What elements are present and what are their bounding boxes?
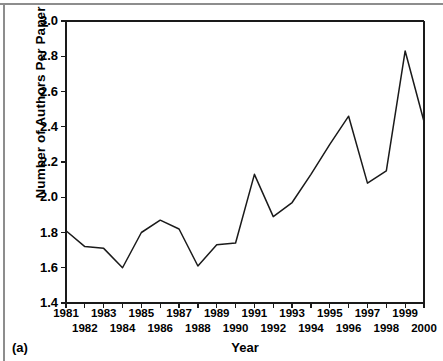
y-axis-tick-marks <box>61 21 66 303</box>
plot-frame <box>66 21 424 303</box>
panel-caption: (a) <box>12 340 28 355</box>
x-tick-label-even: 1996 <box>332 323 366 335</box>
y-tick-label: 1.6 <box>18 261 58 274</box>
x-tick-label-even: 1998 <box>369 323 403 335</box>
x-tick-label-odd: 1981 <box>49 308 83 320</box>
x-tick-label-even: 1986 <box>143 323 177 335</box>
authors-per-paper-series <box>66 51 424 268</box>
x-tick-label-odd: 1991 <box>237 308 271 320</box>
x-tick-label-even: 1994 <box>294 323 328 335</box>
x-tick-label-odd: 1983 <box>87 308 121 320</box>
x-tick-label-even: 1992 <box>256 323 290 335</box>
x-tick-label-odd: 1989 <box>200 308 234 320</box>
x-tick-label-odd: 1985 <box>124 308 158 320</box>
x-tick-label-odd: 1993 <box>275 308 309 320</box>
x-tick-label-odd: 1999 <box>388 308 422 320</box>
x-tick-label-even: 1988 <box>181 323 215 335</box>
x-tick-label-odd: 1997 <box>350 308 384 320</box>
x-tick-label-even: 1984 <box>106 323 140 335</box>
y-tick-label: 1.8 <box>18 226 58 239</box>
x-tick-label-odd: 1987 <box>162 308 196 320</box>
figure-panel-a: 1.41.61.82.02.22.42.62.83.0 198119831985… <box>0 0 443 361</box>
x-tick-label-odd: 1995 <box>313 308 347 320</box>
x-axis-title: Year <box>66 340 424 355</box>
y-axis-title: Number of Authors Per Paper <box>33 3 48 203</box>
x-tick-label-even: 1990 <box>219 323 253 335</box>
x-tick-label-even: 1982 <box>68 323 102 335</box>
x-tick-label-even: 2000 <box>407 323 441 335</box>
